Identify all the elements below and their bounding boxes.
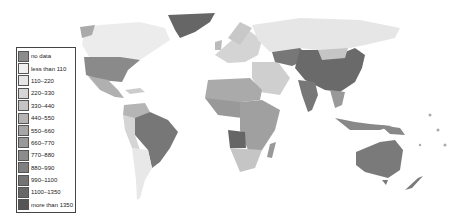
country-greenland[interactable] (168, 13, 215, 38)
legend-label: 550–660 (31, 128, 54, 134)
legend-row-12: more than 1350 (18, 199, 75, 211)
legend-label: 660–770 (31, 140, 54, 146)
country-tasmania[interactable] (382, 180, 388, 185)
legend-label: no data (31, 53, 51, 59)
pacific-island (444, 144, 447, 147)
pacific-island (419, 144, 421, 146)
legend-label: 110–220 (31, 78, 54, 84)
papua[interactable] (380, 125, 405, 135)
legend-row-11: 1100–1350 (18, 186, 75, 198)
legend-swatch (18, 63, 29, 74)
legend-row-6: 550–660 (18, 124, 75, 136)
legend-label: 990–1100 (31, 177, 57, 183)
legend-swatch (18, 187, 29, 198)
legend-swatch (18, 113, 29, 124)
legend-row-1: less than 110 (18, 62, 75, 74)
southeast-asia[interactable] (330, 90, 345, 108)
legend-row-10: 990–1100 (18, 174, 75, 186)
legend-label: 1100–1350 (31, 189, 61, 195)
legend-label: 880–990 (31, 165, 54, 171)
legend-swatch (18, 100, 29, 111)
pacific-island (437, 129, 440, 132)
legend-label: more than 1350 (31, 202, 73, 208)
legend-swatch (18, 199, 29, 210)
legend-swatch (18, 137, 29, 148)
legend-label: less than 110 (31, 66, 66, 72)
country-australia[interactable] (356, 140, 403, 178)
legend-row-4: 330–440 (18, 100, 75, 112)
legend-label: 330–440 (31, 103, 54, 109)
pacific-island (429, 114, 432, 117)
country-new-zealand[interactable] (405, 176, 423, 190)
legend-row-5: 440–550 (18, 112, 75, 124)
legend-swatch (18, 175, 29, 186)
madagascar[interactable] (267, 142, 276, 158)
country-canada[interactable] (82, 22, 170, 62)
legend-swatch (18, 162, 29, 173)
legend-swatch (18, 88, 29, 99)
country-angola[interactable] (228, 130, 246, 148)
caribbean[interactable] (125, 88, 145, 94)
legend-label: 440–550 (31, 115, 54, 121)
legend-row-2: 110–220 (18, 75, 75, 87)
legend-row-9: 880–990 (18, 162, 75, 174)
central-east-africa[interactable] (240, 100, 280, 150)
country-argentina-chile[interactable] (132, 148, 152, 200)
map-legend: no data less than 110 110–220 220–330 33… (16, 47, 76, 213)
uk[interactable] (215, 40, 222, 50)
legend-swatch (18, 150, 29, 161)
legend-row-7: 660–770 (18, 137, 75, 149)
country-indonesia[interactable] (335, 118, 392, 130)
legend-swatch (18, 75, 29, 86)
country-india[interactable] (298, 80, 318, 112)
legend-label: 770–880 (31, 152, 54, 158)
legend-swatch (18, 125, 29, 136)
southern-africa[interactable] (230, 148, 262, 172)
legend-swatch (18, 51, 29, 62)
legend-label: 220–330 (31, 90, 54, 96)
legend-row-3: 220–330 (18, 87, 75, 99)
legend-row-0: no data (18, 50, 75, 62)
legend-row-8: 770–880 (18, 149, 75, 161)
country-russia[interactable] (252, 18, 400, 52)
